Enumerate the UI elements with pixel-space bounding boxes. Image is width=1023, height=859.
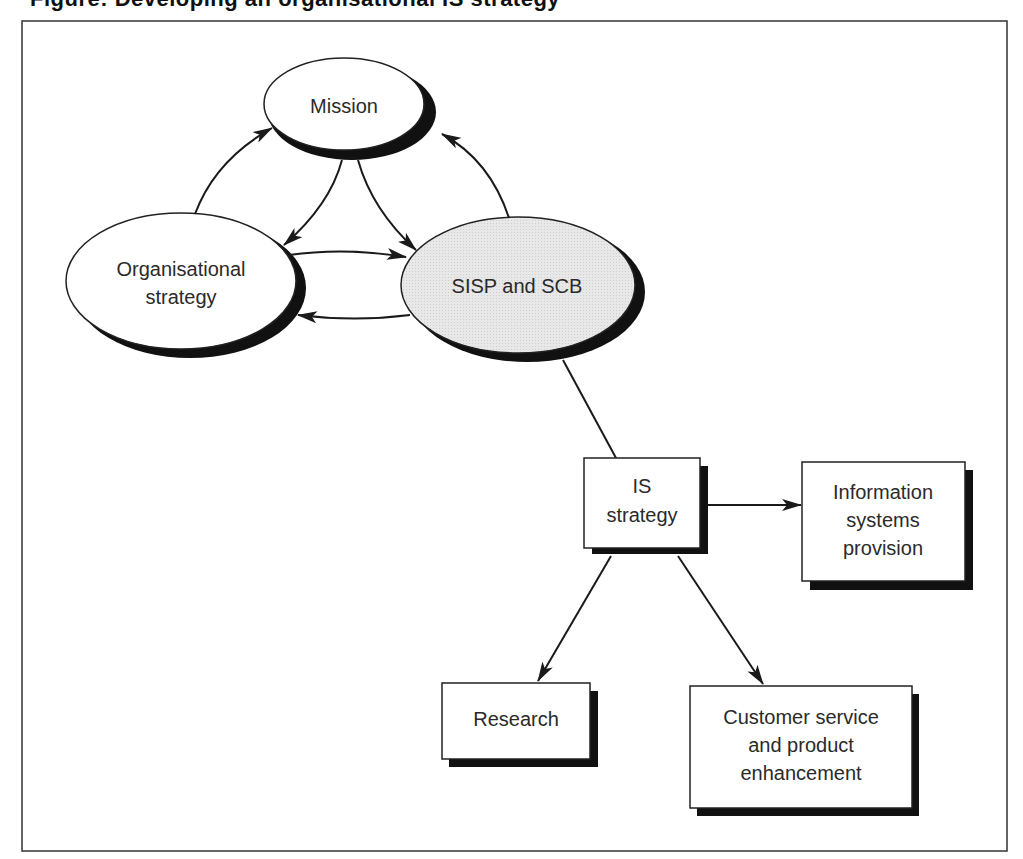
diagram-canvas: Mission Organisational strategy SISP and… [0, 0, 1023, 859]
node-mission: Mission [264, 58, 436, 160]
customer-service-label-line2: and product [748, 734, 854, 756]
is-provision-label-line1: Information [833, 481, 933, 503]
edge-org-to-sisp [289, 251, 406, 257]
is-provision-label-line3: provision [843, 537, 923, 559]
is-strategy-label-line2: strategy [606, 504, 677, 526]
node-is-strategy: IS strategy [584, 458, 708, 554]
edge-is-strategy-to-research [538, 556, 611, 681]
edge-sisp-to-org [298, 315, 410, 319]
edge-sisp-to-mission [442, 134, 509, 218]
customer-service-label-line1: Customer service [723, 706, 879, 728]
node-customer-service: Customer service and product enhancement [690, 686, 919, 816]
org-strategy-label-line1: Organisational [117, 258, 246, 280]
node-research: Research [442, 683, 598, 767]
node-information-systems-provision: Information systems provision [802, 462, 973, 590]
research-label: Research [473, 708, 559, 730]
node-sisp-and-scb: SISP and SCB [401, 217, 645, 362]
org-strategy-label-line2: strategy [145, 286, 216, 308]
node-organisational-strategy: Organisational strategy [66, 213, 306, 358]
edge-mission-to-org [284, 160, 342, 245]
edge-sisp-to-is-strategy [563, 360, 616, 458]
edge-org-to-mission [195, 128, 272, 214]
sisp-label: SISP and SCB [452, 275, 583, 297]
mission-label: Mission [310, 95, 378, 117]
edge-is-strategy-to-customer-service [678, 556, 763, 684]
is-provision-label-line2: systems [846, 509, 919, 531]
customer-service-label-line3: enhancement [740, 762, 862, 784]
is-strategy-label-line1: IS [633, 475, 652, 497]
edge-mission-to-sisp [358, 160, 416, 250]
